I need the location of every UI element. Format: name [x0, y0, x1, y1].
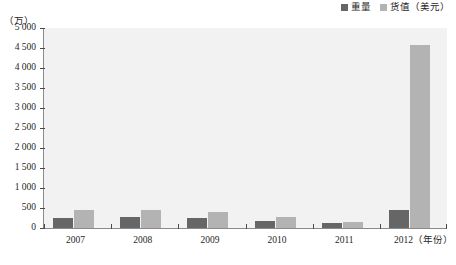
x-axis-label-2010: 2010: [268, 235, 287, 246]
legend-label-weight: 重量: [351, 3, 371, 13]
y-axis-tick-label: 4 000: [15, 62, 36, 73]
x-axis-label-2008: 2008: [133, 235, 152, 246]
x-axis-tick-mark: [313, 224, 314, 229]
bar-2011-weight[interactable]: [322, 223, 342, 228]
legend-swatch-value: [380, 4, 387, 11]
y-axis-tick-label: 2 500: [15, 122, 36, 133]
y-axis-tick-mark: [40, 208, 45, 209]
legend-item-value[interactable]: 货值（美元）: [380, 3, 450, 13]
bar-2012-value[interactable]: [410, 45, 430, 228]
x-axis-tick-mark: [44, 224, 45, 229]
x-axis-tick-mark: [380, 224, 381, 229]
y-axis-tick-label: 0: [31, 222, 36, 233]
legend-label-value: 货值（美元）: [390, 3, 450, 13]
y-axis-tick-label: 1 500: [15, 162, 36, 173]
bar-2008-value[interactable]: [141, 210, 161, 228]
y-axis-tick-mark: [40, 168, 45, 169]
bar-2007-weight[interactable]: [53, 218, 73, 228]
y-axis-tick-mark: [40, 148, 45, 149]
y-axis-tick-mark: [40, 108, 45, 109]
y-axis-tick-mark: [40, 28, 45, 29]
x-axis-tick-mark: [446, 224, 447, 229]
y-axis-tick-label: 3 000: [15, 102, 36, 113]
bar-chart: 重量 货值（美元） （万） 5 0004 5004 0003 5003 0002…: [0, 0, 456, 265]
y-axis-tick-label: 500: [22, 202, 36, 213]
bar-2009-weight[interactable]: [187, 218, 207, 228]
bar-2008-weight[interactable]: [120, 217, 140, 228]
y-axis-tick-label: 1 000: [15, 182, 36, 193]
y-axis-tick-label: 4 500: [15, 42, 36, 53]
x-axis-label-2011: 2011: [335, 235, 354, 246]
x-axis-tick-mark: [111, 224, 112, 229]
bar-2007-value[interactable]: [74, 210, 94, 228]
bar-2011-value[interactable]: [343, 222, 363, 228]
legend-swatch-weight: [341, 4, 348, 11]
bar-2012-weight[interactable]: [389, 210, 409, 228]
x-axis-unit-label: （年份）: [413, 235, 453, 245]
legend-item-weight[interactable]: 重量: [341, 3, 371, 13]
x-axis-tick-mark: [246, 224, 247, 229]
x-axis-tick-mark: [178, 224, 179, 229]
x-axis-label-2012: 2012（年份）: [394, 235, 453, 246]
y-axis-tick-label: 2 000: [15, 142, 36, 153]
y-axis-tick-mark: [40, 188, 45, 189]
x-axis-label-2009: 2009: [200, 235, 219, 246]
plot-frame: 5 0004 5004 0003 5003 0002 5002 0001 500…: [43, 28, 447, 229]
y-axis-tick-mark: [40, 128, 45, 129]
y-axis-tick-label: 5 000: [15, 22, 36, 33]
y-axis-tick-mark: [40, 48, 45, 49]
bar-2009-value[interactable]: [208, 212, 228, 228]
bar-2010-weight[interactable]: [255, 221, 275, 228]
x-axis-label-2007: 2007: [66, 235, 85, 246]
y-axis-tick-label: 3 500: [15, 82, 36, 93]
bar-2010-value[interactable]: [276, 217, 296, 228]
chart-legend: 重量 货值（美元）: [341, 3, 450, 13]
y-axis-tick-mark: [40, 68, 45, 69]
plot-area: 5 0004 5004 0003 5003 0002 5002 0001 500…: [44, 28, 447, 228]
y-axis-tick-mark: [40, 88, 45, 89]
